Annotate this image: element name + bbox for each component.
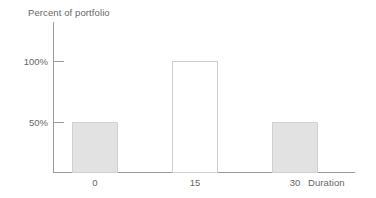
x-axis-title: Duration (308, 177, 345, 188)
bar-duration-30 (272, 122, 318, 173)
y-tick-label-50-wrap: 50% (8, 117, 48, 129)
x-tick-label-0: 0 (72, 177, 118, 188)
bar-chart: Percent of portfolio 100% 50% 0 15 30 Du… (0, 0, 376, 198)
y-axis-title: Percent of portfolio (28, 7, 110, 18)
y-tick-label-100: 100% (12, 56, 48, 67)
y-tick-label-50: 50% (12, 117, 48, 128)
y-axis-line (53, 22, 54, 173)
y-tick-mark-50 (54, 122, 64, 123)
y-tick-mark-100 (54, 61, 64, 62)
y-tick-label-100-wrap: 100% (8, 56, 48, 68)
bar-duration-15 (172, 61, 218, 173)
x-tick-label-15: 15 (172, 177, 218, 188)
bar-duration-0 (72, 122, 118, 173)
